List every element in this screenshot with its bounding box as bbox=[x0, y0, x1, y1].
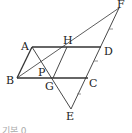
label-d: D bbox=[104, 45, 113, 58]
label-g: G bbox=[45, 80, 54, 93]
label-f: F bbox=[117, 0, 125, 11]
label-c: C bbox=[89, 77, 97, 90]
label-h: H bbox=[63, 34, 73, 47]
label-e: E bbox=[66, 110, 74, 123]
label-p: P bbox=[38, 66, 46, 79]
label-b: B bbox=[6, 74, 14, 87]
geometry-figure: A H D B P G C E F bbox=[0, 0, 132, 133]
label-a: A bbox=[20, 40, 30, 53]
caption: 기본 0 bbox=[2, 124, 27, 133]
